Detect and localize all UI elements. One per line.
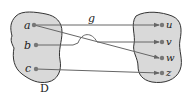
dot-u	[160, 23, 164, 27]
label-b: b	[24, 39, 31, 52]
dot-a	[32, 23, 36, 27]
label-a: a	[24, 19, 31, 32]
dot-w	[160, 56, 164, 60]
label-z: z	[165, 67, 172, 78]
label-w: w	[166, 52, 175, 63]
dot-z	[160, 71, 164, 75]
label-v: v	[166, 36, 172, 47]
label-c: c	[25, 62, 31, 75]
label-domain-D: D	[40, 82, 49, 95]
domain-set-blob	[11, 12, 62, 83]
dot-c	[34, 67, 38, 71]
function-mapping-diagram: g a b c u v w z D	[0, 0, 188, 95]
dot-v	[160, 40, 164, 44]
label-g: g	[88, 12, 95, 25]
dot-b	[34, 43, 38, 47]
label-u: u	[166, 19, 172, 30]
